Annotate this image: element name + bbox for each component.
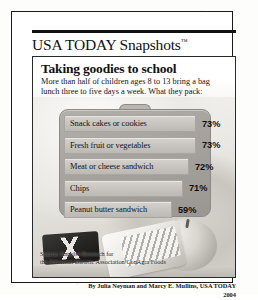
- bar-fill: Fresh fruit or vegetables: [64, 137, 196, 154]
- bar-label: Snack cakes or cookies: [65, 119, 147, 128]
- masthead-rule: [32, 30, 236, 33]
- bar-row: Fresh fruit or vegetables 73%: [64, 137, 236, 154]
- byline: By Julia Neyman and Marcy E. Mullins, US…: [32, 281, 236, 300]
- bar-value: 71%: [189, 183, 207, 193]
- bar-label: Chips: [65, 184, 89, 193]
- bar-row: Chips 71%: [64, 180, 236, 197]
- bar-label: Meat or cheese sandwich: [65, 162, 153, 171]
- bar-value: 72%: [195, 162, 213, 172]
- byline-year: 2004: [32, 290, 236, 299]
- snapshot-frame: USA TODAY Snapshots™ Taking goodies to s…: [11, 11, 233, 283]
- source-note: Source: Impulse Research for the America…: [40, 250, 166, 266]
- bar-fill: Snack cakes or cookies: [64, 115, 196, 132]
- lunch-illustration: [33, 215, 235, 277]
- bar-chart: Snack cakes or cookies 73% Fresh fruit o…: [64, 115, 236, 223]
- bar-label: Fresh fruit or vegetables: [65, 141, 150, 150]
- chart-panel: Taking goodies to school More than half …: [32, 56, 236, 278]
- bar-value: 73%: [202, 140, 220, 150]
- trademark-symbol: ™: [181, 38, 188, 46]
- masthead: USA TODAY Snapshots™: [32, 30, 236, 54]
- bar-row: Snack cakes or cookies 73%: [64, 115, 236, 132]
- byline-credit: By Julia Neyman and Marcy E. Mullins, US…: [32, 281, 236, 290]
- source-line-1: Source: Impulse Research for: [40, 250, 166, 258]
- masthead-brand: USA TODAY Snapshots: [32, 36, 181, 53]
- bar-label: Peanut butter sandwich: [65, 205, 147, 214]
- source-line-2: the American Dietetic Association/ConAgr…: [40, 258, 166, 266]
- bar-value: 73%: [202, 119, 220, 129]
- bar-fill: Meat or cheese sandwich: [64, 158, 189, 175]
- bar-row: Meat or cheese sandwich 72%: [64, 158, 236, 175]
- bar-fill: Chips: [64, 180, 183, 197]
- masthead-title: USA TODAY Snapshots™: [32, 36, 236, 54]
- chart-headline: Taking goodies to school: [41, 62, 229, 77]
- bar-value: 59%: [178, 205, 196, 215]
- chart-subhead: More than half of children ages 8 to 13 …: [41, 77, 230, 98]
